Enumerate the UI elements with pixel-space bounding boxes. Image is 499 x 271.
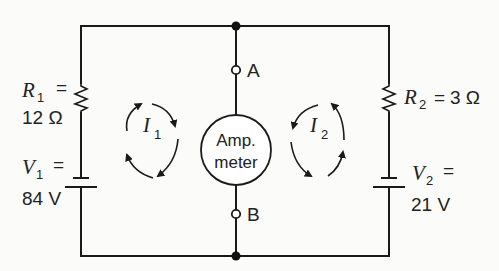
v2-label: V 2 = 21 V	[411, 160, 454, 215]
junction-bottom	[232, 252, 241, 261]
junction-top	[232, 22, 241, 31]
svg-text:2: 2	[426, 173, 433, 188]
svg-text:=: =	[53, 154, 64, 175]
v1-label: V 1 = 84 V	[22, 154, 64, 209]
circuit-diagram: A B Amp. meter R 1 = 12 Ω R 2 = 3 Ω V 1 …	[0, 0, 499, 271]
ammeter-label-line1: Amp.	[216, 131, 256, 150]
svg-text:=: =	[56, 77, 67, 98]
svg-text:2: 2	[321, 127, 328, 142]
battery-v1-icon	[66, 178, 96, 187]
svg-text:I: I	[309, 113, 318, 137]
svg-text:1: 1	[36, 167, 43, 182]
svg-text:21 V: 21 V	[411, 194, 450, 215]
loop-i2-arrows-icon	[291, 104, 344, 176]
svg-text:12 Ω: 12 Ω	[22, 107, 63, 128]
svg-text:=: =	[434, 87, 445, 108]
node-b-label: B	[247, 204, 260, 225]
loop-i1-label: I 1	[142, 113, 161, 142]
r1-label: R 1 = 12 Ω	[21, 77, 67, 128]
resistor-r2-icon	[383, 83, 395, 113]
svg-text:84 V: 84 V	[22, 188, 61, 209]
ammeter: Amp. meter	[201, 115, 271, 185]
svg-text:V: V	[22, 155, 37, 179]
svg-text:1: 1	[37, 90, 44, 105]
battery-v2-icon	[374, 178, 404, 187]
node-a-label: A	[247, 60, 260, 81]
svg-text:R: R	[21, 78, 35, 102]
svg-text:V: V	[412, 161, 427, 185]
svg-text:3 Ω: 3 Ω	[450, 87, 480, 108]
loop-i1-arrows-icon	[127, 104, 178, 178]
svg-text:2: 2	[419, 97, 426, 112]
ammeter-label-line2: meter	[214, 153, 258, 172]
svg-text:I: I	[142, 113, 151, 137]
terminal-a	[232, 66, 240, 74]
svg-text:1: 1	[154, 127, 161, 142]
terminal-b	[232, 210, 240, 218]
loop-i2-label: I 2	[309, 113, 328, 142]
r2-label: R 2 = 3 Ω	[403, 85, 480, 112]
svg-text:=: =	[443, 160, 454, 181]
resistor-r1-icon	[75, 83, 87, 113]
svg-text:R: R	[403, 85, 417, 109]
